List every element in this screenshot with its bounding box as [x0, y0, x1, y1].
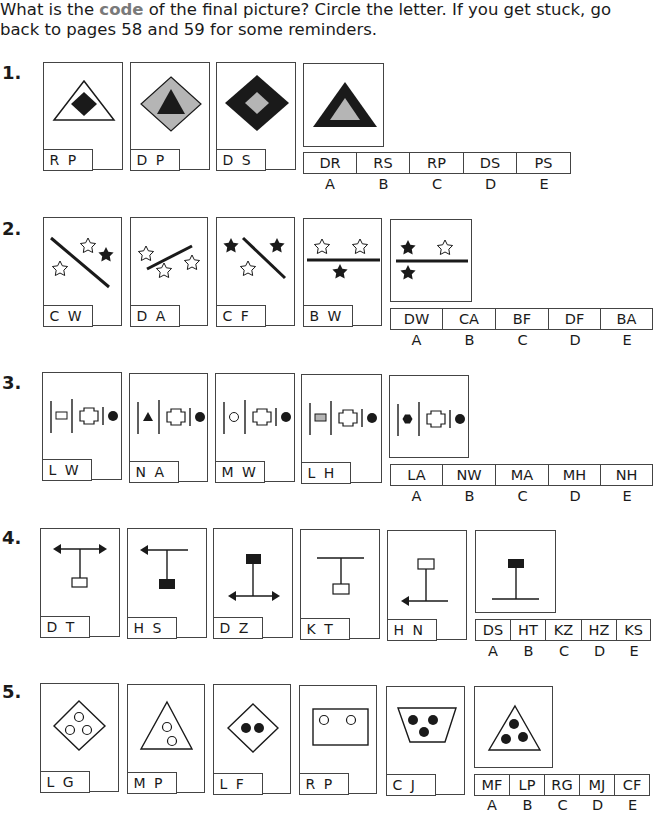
- q5-letters: A B C D E: [474, 797, 650, 813]
- q2-example-2: D A: [130, 217, 208, 326]
- q5-code-1: L G: [40, 771, 90, 793]
- q5-letter-c[interactable]: C: [545, 797, 580, 813]
- q3-code-2: N A: [129, 461, 179, 483]
- q4-letter-b[interactable]: B: [511, 643, 546, 659]
- q1-letters: A B C D E: [303, 176, 571, 192]
- q4-letter-a[interactable]: A: [475, 643, 511, 659]
- q5-code-4: R P: [299, 773, 349, 795]
- q5-code-2: M P: [127, 772, 177, 794]
- q5-options: MF LP RG MJ CF: [474, 774, 650, 796]
- q5-example-4: R P: [299, 685, 377, 794]
- q3-letter-c[interactable]: C: [496, 488, 549, 504]
- q1-code-3: D S: [216, 149, 266, 171]
- q2-code-3: C F: [216, 305, 266, 327]
- q5-letter-b[interactable]: B: [510, 797, 545, 813]
- q3-example-4: L H: [301, 374, 382, 483]
- q2-letter-d[interactable]: D: [549, 332, 601, 348]
- instructions-highlight: code: [99, 0, 143, 19]
- q1-options: DR RS RP DS PS: [303, 152, 571, 174]
- q2-letters: A B C D E: [390, 332, 653, 348]
- q2-option-a[interactable]: DW: [390, 308, 443, 330]
- q1-letter-a[interactable]: A: [303, 176, 357, 192]
- q5-example-2: M P: [127, 684, 205, 793]
- q1-letter-c[interactable]: C: [410, 176, 464, 192]
- q4-letter-d[interactable]: D: [582, 643, 617, 659]
- q1-code-2: D P: [130, 149, 180, 171]
- q4-code-2: H S: [127, 617, 177, 639]
- q3-option-c[interactable]: MA: [496, 464, 549, 486]
- question-2-number: 2.: [2, 218, 21, 239]
- q4-option-a[interactable]: DS: [475, 619, 511, 641]
- q2-option-d[interactable]: DF: [549, 308, 601, 330]
- q1-final-picture: [303, 63, 384, 147]
- q4-letter-e[interactable]: E: [617, 643, 651, 659]
- instructions: What is the code of the final picture? C…: [0, 0, 651, 40]
- q4-example-5: H N: [387, 530, 467, 640]
- q2-code-1: C W: [43, 305, 93, 327]
- triangle-three-black-circles-icon: [475, 687, 554, 769]
- q3-options: LA NW MA MH NH: [390, 464, 653, 486]
- q3-letter-d[interactable]: D: [549, 488, 601, 504]
- q1-option-b[interactable]: RS: [357, 152, 410, 174]
- q1-example-3: D S: [216, 62, 296, 170]
- q4-letters: A B C D E: [475, 643, 651, 659]
- q3-example-3: M W: [215, 373, 295, 482]
- q3-letters: A B C D E: [390, 488, 653, 504]
- q3-option-e[interactable]: NH: [601, 464, 653, 486]
- q5-option-b[interactable]: LP: [510, 774, 545, 796]
- q3-letter-b[interactable]: B: [443, 488, 496, 504]
- q4-letter-c[interactable]: C: [546, 643, 582, 659]
- q3-option-b[interactable]: NW: [443, 464, 496, 486]
- q4-example-2: H S: [127, 528, 207, 638]
- q1-letter-b[interactable]: B: [357, 176, 410, 192]
- q5-code-5: C J: [386, 774, 436, 796]
- q2-example-4: B W: [303, 218, 382, 326]
- q4-final-picture: [475, 530, 556, 613]
- triangle-with-triangle-icon: [304, 64, 385, 148]
- q4-option-b[interactable]: HT: [511, 619, 546, 641]
- q3-option-a[interactable]: LA: [390, 464, 443, 486]
- q3-letter-a[interactable]: A: [390, 488, 443, 504]
- q2-options: DW CA BF DF BA: [390, 308, 653, 330]
- q5-example-5: C J: [386, 686, 465, 795]
- q4-option-e[interactable]: KS: [617, 619, 651, 641]
- q1-option-c[interactable]: RP: [410, 152, 464, 174]
- q2-option-e[interactable]: BA: [601, 308, 653, 330]
- q1-option-a[interactable]: DR: [303, 152, 357, 174]
- q2-option-b[interactable]: CA: [443, 308, 496, 330]
- q5-letter-d[interactable]: D: [580, 797, 615, 813]
- line-with-stars-icon: [391, 220, 473, 303]
- q5-option-a[interactable]: MF: [474, 774, 510, 796]
- q3-code-1: L W: [42, 459, 92, 481]
- bars-hexagon-icon: [390, 376, 470, 459]
- q1-letter-e[interactable]: E: [517, 176, 571, 192]
- q5-option-e[interactable]: CF: [615, 774, 650, 796]
- q5-letter-a[interactable]: A: [474, 797, 510, 813]
- q2-option-c[interactable]: BF: [496, 308, 549, 330]
- q4-code-1: D T: [40, 616, 90, 638]
- question-4-number: 4.: [2, 527, 21, 548]
- q3-letter-e[interactable]: E: [601, 488, 653, 504]
- q1-example-1: R P: [43, 62, 123, 170]
- q5-option-d[interactable]: MJ: [580, 774, 615, 796]
- q4-option-d[interactable]: HZ: [582, 619, 617, 641]
- q2-letter-a[interactable]: A: [390, 332, 443, 348]
- q4-option-c[interactable]: KZ: [546, 619, 582, 641]
- q4-code-5: H N: [387, 619, 437, 641]
- q1-option-e[interactable]: PS: [517, 152, 571, 174]
- q1-option-d[interactable]: DS: [464, 152, 517, 174]
- q2-final-picture: [390, 219, 472, 302]
- q2-letter-c[interactable]: C: [496, 332, 549, 348]
- q1-letter-d[interactable]: D: [464, 176, 517, 192]
- q1-example-2: D P: [130, 62, 210, 170]
- q3-option-d[interactable]: MH: [549, 464, 601, 486]
- q5-letter-e[interactable]: E: [615, 797, 650, 813]
- q4-example-3: D Z: [213, 528, 293, 638]
- q2-letter-b[interactable]: B: [443, 332, 496, 348]
- q4-code-4: K T: [300, 618, 350, 640]
- q4-code-3: D Z: [213, 617, 263, 639]
- q3-final-picture: [389, 375, 469, 458]
- q2-letter-e[interactable]: E: [601, 332, 653, 348]
- q5-option-c[interactable]: RG: [545, 774, 580, 796]
- q5-final-picture: [474, 686, 553, 768]
